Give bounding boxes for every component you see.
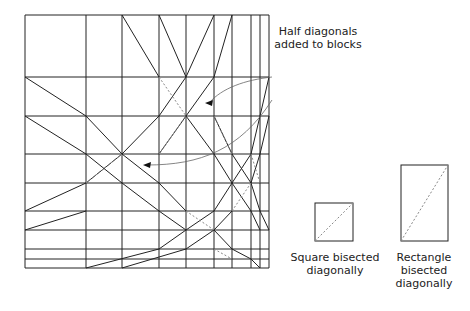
diagonal-line [25,211,86,230]
callout-label: Half diagonals added to blocks [268,25,368,51]
bisect-diagonal-dashed [401,165,448,241]
diagonal-line [25,77,86,116]
diagonal-line [25,183,86,211]
diagonal-line [122,183,159,211]
diagonal-line [159,211,186,230]
block-grid [25,15,269,268]
rectangle-label: Rectangle bisected diagonally [384,251,464,290]
diagonal-line [214,211,232,230]
diagonal-line [186,230,214,249]
diagonal-line [122,154,159,183]
diagonal-line [260,116,269,154]
diagonal-line [159,116,186,154]
diagonal-line [251,211,260,230]
diagonal-line [260,77,269,116]
diagonal-line [232,249,251,259]
diagonal-line [159,183,186,211]
dashed-half-diagonals [86,77,260,259]
diagonal-line [25,116,86,154]
arrow-curve [147,100,272,165]
diagonal-line [159,230,186,249]
diagonal-line [122,15,159,77]
arrowhead-icon [143,162,151,168]
diagonal-line [260,211,269,230]
bisect-diagonal-dashed [315,203,353,241]
diagonal-line [251,183,260,211]
square-label: Square bisected diagonally [290,251,380,277]
diagonal-line [214,230,232,249]
diagonal-line [86,116,122,154]
diagonal-line [159,15,186,77]
arrowhead-icon [205,100,213,106]
diagonal-line [214,183,232,211]
half-diagonal-dashed [214,249,232,259]
example-shapes [315,165,448,241]
arrow-curve [209,77,272,103]
diagonal-line [214,154,232,183]
diagonal-line [186,15,214,77]
diagonal-line [251,259,260,268]
diagonal-line [122,116,159,154]
diagonal-line [186,77,214,116]
diagonal-line [186,116,214,154]
diagonal-line [214,15,232,77]
